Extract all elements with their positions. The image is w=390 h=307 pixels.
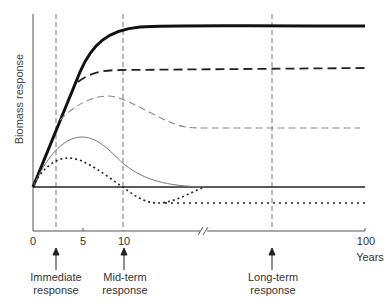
series-thick-solid: [33, 26, 365, 187]
tick-label-10: 10: [114, 235, 134, 248]
annotation-immediate-line2: response: [26, 284, 86, 297]
series-thin-solid: [33, 137, 205, 187]
tick-label-5: 5: [76, 235, 90, 248]
arrow-up-icon: [121, 248, 127, 270]
annotation-mid-line1: Mid-term: [95, 271, 155, 284]
annotation-long-line2: response: [240, 284, 306, 297]
chart-plot: [0, 0, 390, 307]
series-light-dashed: [60, 96, 360, 128]
annotation-long-term: Long-term response: [240, 271, 306, 297]
tick-label-0: 0: [26, 235, 40, 248]
x-axis-unit-label: Years: [350, 251, 390, 264]
series-heavy-dashed: [78, 68, 365, 82]
series-dotted: [33, 158, 205, 203]
arrow-up-icon: [53, 248, 59, 270]
annotation-immediate: Immediate response: [26, 271, 86, 297]
annotation-long-line1: Long-term: [240, 271, 306, 284]
annotation-mid-term: Mid-term response: [95, 271, 155, 297]
annotation-immediate-line1: Immediate: [26, 271, 86, 284]
arrow-up-icon: [269, 248, 275, 270]
annotation-mid-line2: response: [95, 284, 155, 297]
y-axis-label: Biomass response: [13, 44, 25, 154]
tick-label-100: 100: [353, 235, 379, 248]
